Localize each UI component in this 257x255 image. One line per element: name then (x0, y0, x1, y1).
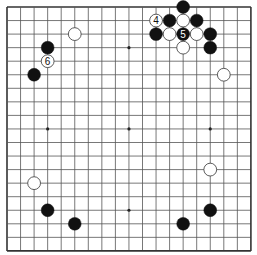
black-stone (204, 41, 217, 54)
black-stone (41, 204, 54, 217)
white-stone: 6 (41, 55, 54, 68)
black-stone (204, 28, 217, 41)
star-point (127, 127, 130, 130)
black-stone (163, 14, 176, 27)
black-stone (68, 217, 81, 230)
move-number-label: 6 (45, 56, 51, 67)
star-point (127, 46, 130, 49)
black-stone (28, 68, 41, 81)
white-stone (177, 14, 190, 27)
black-stone (177, 1, 190, 14)
move-number-label: 5 (180, 29, 186, 40)
white-stone (28, 177, 41, 190)
black-stone: 5 (177, 28, 190, 41)
star-point (46, 127, 49, 130)
white-stone (190, 28, 203, 41)
white-stone (204, 163, 217, 176)
black-stone (150, 28, 163, 41)
white-stone: 4 (150, 14, 163, 27)
black-stone (41, 41, 54, 54)
white-stone (217, 68, 230, 81)
star-point (127, 209, 130, 212)
white-stone (68, 28, 81, 41)
black-stone (204, 204, 217, 217)
white-stone (177, 41, 190, 54)
white-stone (163, 28, 176, 41)
move-number-label: 4 (153, 15, 159, 26)
black-stone (190, 14, 203, 27)
black-stone (177, 217, 190, 230)
go-board: 645 (0, 0, 257, 255)
star-point (209, 127, 212, 130)
